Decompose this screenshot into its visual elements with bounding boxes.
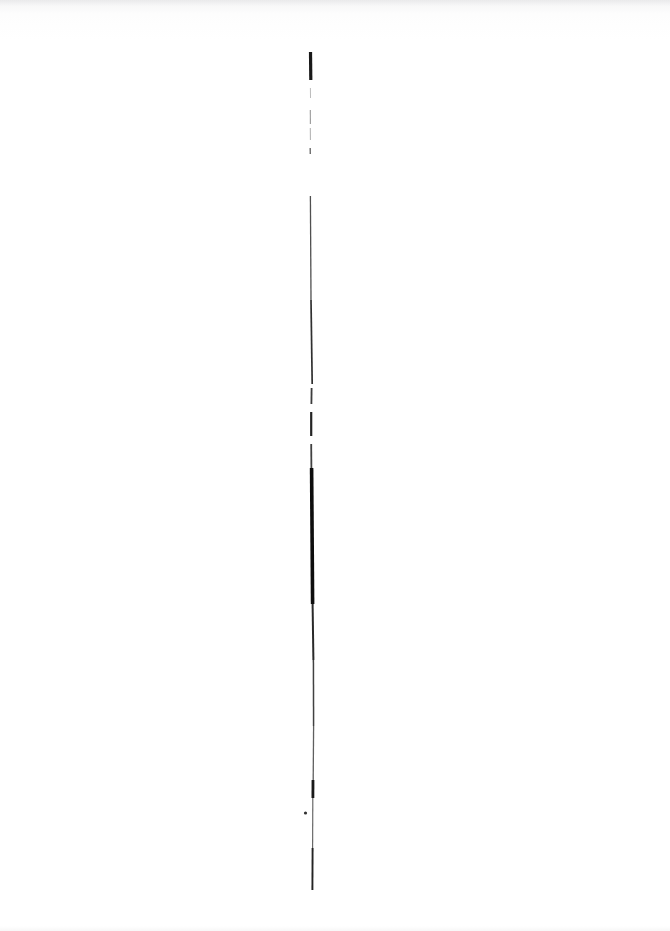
stroke-segment-post-heavy-run [313,604,314,660]
scanned-page [0,0,670,931]
stroke-segments [310,52,313,890]
vertical-ink-stroke [0,0,670,931]
stroke-segment-upper-mid-run [311,300,312,384]
ink-mark-stray-dot [304,811,307,814]
detached-marks [304,811,307,814]
ink-layer [0,0,670,931]
stroke-segment-heavy-core [312,468,313,604]
stroke-segment-upper-thin-run [310,196,311,300]
